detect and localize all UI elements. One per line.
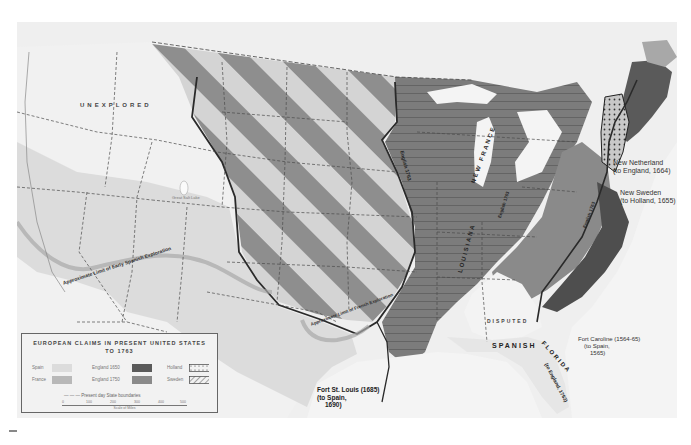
legend-swatch-england-1750 [132,376,152,384]
legend-state-boundaries: — — — Present day State boundaries [64,393,141,398]
label-disputed: DISPUTED [487,318,528,324]
new-sweden-name: New Sweden [620,189,676,197]
legend-label-holland: Holland [167,365,182,370]
legend-swatch-holland [189,364,209,372]
great-salt-lake [180,181,188,195]
scale-bar: 0 100 200 300 400 500 Scale of Miles [62,400,187,410]
label-great-salt-lake: Great Salt Lake [172,195,200,200]
label-spanish: SPANISH [492,342,537,349]
legend-swatch-sweden [189,376,209,384]
legend-label-spain: Spain [32,365,44,370]
new-sweden-note: (to Holland, 1655) [620,197,676,205]
fort-caroline-name: Fort Caroline (1564-65) [578,336,640,343]
fort-st-louis-year: 1690) [317,401,379,409]
scale-label: Scale of Miles [62,406,187,410]
scale-tick: 300 [134,400,140,404]
fort-caroline-note: (to Spain, [578,343,640,350]
callout-fort-caroline: Fort Caroline (1564-65) (to Spain, 1565) [578,336,640,357]
scale-tick: 200 [110,400,116,404]
legend-label-england-1750: England 1750 [92,377,120,382]
fort-st-louis-note: (to Spain, [317,394,379,402]
scale-tick: 500 [180,400,186,404]
legend-label-france: France [32,377,46,382]
legend-swatch-france [52,376,72,384]
callout-fort-st-louis: Fort St. Louis (1685) (to Spain, 1690) [317,386,379,409]
legend-title-line1: EUROPEAN CLAIMS IN PRESENT UNITED STATES [22,339,217,347]
legend-label-england-1650: England 1650 [92,365,120,370]
scale-tick: 400 [158,400,164,404]
legend-title: EUROPEAN CLAIMS IN PRESENT UNITED STATES… [22,339,217,355]
new-netherland-name: New Netherland [613,159,671,167]
map-legend: EUROPEAN CLAIMS IN PRESENT UNITED STATES… [21,333,218,413]
legend-swatch-spain [52,364,72,372]
scale-tick: 100 [86,400,92,404]
legend-label-sweden: Sweden [167,377,183,382]
legend-swatch-england-1650 [132,364,152,372]
callout-new-sweden: New Sweden (to Holland, 1655) [620,189,676,205]
callout-new-netherland: New Netherland (to England, 1664) [613,159,671,175]
scale-ticks: 0 100 200 300 400 500 [62,400,187,404]
caption-fragment [9,430,17,440]
legend-title-line2: TO 1763 [22,347,217,355]
new-netherland-note: (to England, 1664) [613,167,671,175]
fort-st-louis-name: Fort St. Louis (1685) [317,386,379,394]
fort-caroline-year: 1565) [578,350,640,357]
scale-tick: 0 [62,400,64,404]
map-frame: UNEXPLORED Great Salt Lake Approximate L… [17,22,677,418]
label-unexplored: UNEXPLORED [80,102,152,108]
